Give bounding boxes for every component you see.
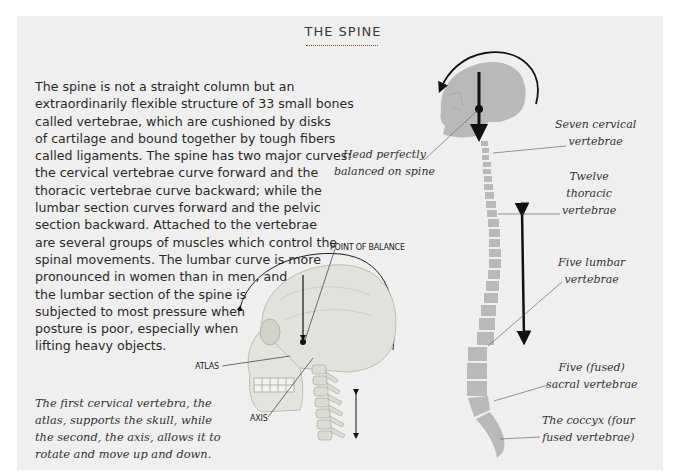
skull-illustration (222, 249, 396, 440)
label-point-of-balance: POINT OF BALANCE (330, 243, 405, 252)
label-atlas: ATLAS (195, 362, 219, 371)
label-thoracic: Twelve thoracic vertebrae (562, 168, 616, 219)
illustrations (0, 0, 686, 474)
label-lumbar: Five lumbar vertebrae (558, 254, 625, 288)
label-cervical: Seven cervical vertebrae (555, 116, 636, 150)
label-sacral: Five (fused) sacral vertebrae (546, 359, 637, 393)
label-head-balanced: Head perfectly balanced on spine (334, 146, 435, 180)
spine-illustration (424, 52, 566, 458)
label-coccyx: The coccyx (four fused vertebrae) (542, 412, 635, 446)
label-axis: AXIS (250, 414, 268, 423)
